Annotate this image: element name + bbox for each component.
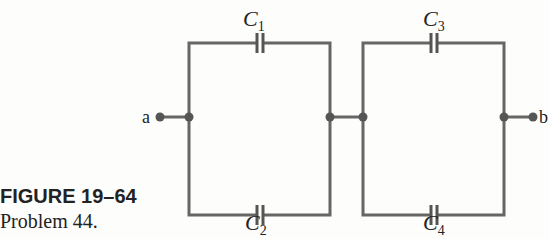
node-label-a: a <box>142 107 150 127</box>
wire-left-box-left <box>189 43 257 215</box>
terminal-a-dot-icon <box>156 113 165 122</box>
junction-mid-left-dot-icon <box>326 113 335 122</box>
node-label-b: b <box>539 107 548 127</box>
wire-right-box-left <box>363 43 431 215</box>
junction-right-dot-icon <box>500 113 509 122</box>
junction-left-dot-icon <box>185 113 194 122</box>
figure-canvas: a b C1 C2 C3 C4 FIGURE 19–64 Problem 44. <box>0 0 549 239</box>
capacitor-c1-icon <box>257 33 263 53</box>
figure-caption: Problem 44. <box>0 210 98 233</box>
terminal-b-dot-icon <box>529 113 538 122</box>
capacitor-label-c3: C3 <box>423 6 445 34</box>
capacitor-label-c1: C1 <box>243 6 265 34</box>
capacitor-c3-icon <box>431 33 437 53</box>
figure-title: FIGURE 19–64 <box>0 185 137 208</box>
capacitor-plates <box>257 33 437 225</box>
wires <box>160 43 533 215</box>
wire-left-box-right <box>263 43 330 215</box>
junction-mid-right-dot-icon <box>359 113 368 122</box>
wire-right-box-right <box>437 43 504 215</box>
